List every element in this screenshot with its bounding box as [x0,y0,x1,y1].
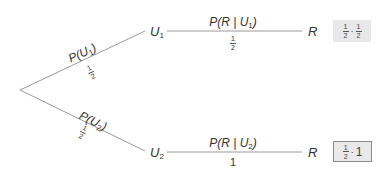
leaf-r-1: R [308,25,317,38]
product-box-2: 12 · 1 [333,141,372,162]
edge-label-p-r-given-u1: P(R | U1) [173,16,293,30]
node-u2: U2 [150,146,164,161]
edge-prob-r-given-u1: 12 [173,35,293,51]
product-box-1: 12 · 12 [333,20,371,42]
edge-label-p-r-given-u2: P(R | U2) [173,137,293,151]
leaf-r-2: R [308,146,317,159]
edge-prob-r-given-u2: 1 [173,156,293,168]
node-u1: U1 [150,25,164,40]
